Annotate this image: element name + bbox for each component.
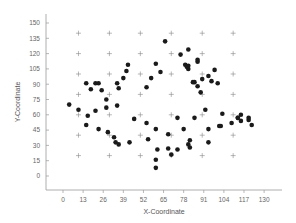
data-point: [85, 114, 90, 119]
data-point: [116, 142, 121, 147]
data-point: [112, 135, 117, 140]
x-axis-ticks: 013263952657891104117130: [61, 190, 270, 203]
plus-marker: [231, 92, 236, 97]
data-point: [206, 127, 211, 132]
data-point: [186, 47, 191, 52]
plus-marker: [138, 31, 143, 36]
plus-marker: [76, 133, 81, 138]
data-point: [212, 68, 217, 73]
data-point: [249, 123, 254, 128]
plus-marker: [231, 31, 236, 36]
plus-marker: [169, 112, 174, 117]
plus-marker: [200, 72, 205, 77]
data-point: [124, 69, 129, 74]
plus-marker: [138, 133, 143, 138]
y-axis-title: Y-Coordinate: [14, 82, 21, 123]
data-point: [115, 103, 120, 108]
y-tick-label: 0: [36, 172, 40, 179]
x-tick-label: 26: [100, 196, 108, 203]
plus-marker: [200, 112, 205, 117]
y-tick-label: 105: [29, 65, 40, 72]
x-tick-label: 78: [180, 196, 188, 203]
data-point: [96, 127, 101, 132]
data-point: [96, 81, 101, 86]
data-point: [144, 85, 149, 90]
data-point: [191, 80, 196, 85]
plus-marker: [76, 153, 81, 158]
y-tick-label: 60: [33, 111, 41, 118]
data-point: [146, 137, 151, 142]
data-point: [217, 124, 222, 129]
y-tick-label: 120: [29, 50, 40, 57]
y-tick-label: 150: [29, 19, 40, 26]
data-point: [188, 138, 193, 143]
data-point: [155, 147, 160, 152]
data-point: [203, 107, 208, 112]
data-point: [106, 130, 111, 135]
data-point: [127, 140, 132, 145]
x-tick-label: 65: [160, 196, 168, 203]
plus-marker: [138, 112, 143, 117]
plus-marker: [231, 51, 236, 56]
data-point: [104, 105, 109, 110]
plus-marker: [200, 31, 205, 36]
data-point: [192, 116, 197, 121]
x-tick-label: 130: [259, 196, 270, 203]
data-point: [163, 39, 168, 44]
data-point: [169, 152, 174, 157]
plus-marker: [76, 92, 81, 97]
plus-marker: [107, 153, 112, 158]
plus-marker: [200, 153, 205, 158]
y-tick-label: 75: [33, 96, 41, 103]
plus-marker: [231, 112, 236, 117]
data-point: [154, 166, 159, 171]
y-tick-label: 90: [33, 81, 41, 88]
plus-marker: [76, 51, 81, 56]
data-point: [181, 127, 186, 132]
data-point: [67, 102, 72, 107]
x-tick-label: 52: [140, 196, 148, 203]
data-point: [175, 147, 180, 152]
data-point: [76, 107, 81, 112]
data-point: [206, 74, 211, 79]
data-point: [198, 90, 203, 95]
plus-marker: [200, 51, 205, 56]
data-point: [84, 123, 89, 128]
scatter-chart: 0153045607590105120135150 01326395265789…: [0, 0, 296, 223]
plus-marker: [138, 153, 143, 158]
x-tick-label: 91: [200, 196, 208, 203]
data-point: [246, 118, 251, 123]
plus-marker: [169, 92, 174, 97]
x-tick-label: 104: [218, 196, 229, 203]
data-point: [154, 127, 159, 132]
data-point: [184, 65, 189, 70]
x-tick-label: 39: [120, 196, 128, 203]
reference-crosses: [76, 31, 236, 158]
y-tick-label: 15: [33, 157, 41, 164]
plus-marker: [76, 72, 81, 77]
data-point: [166, 132, 171, 137]
plus-marker: [231, 153, 236, 158]
plus-marker: [169, 31, 174, 36]
data-point: [166, 146, 171, 151]
plus-marker: [76, 112, 81, 117]
plus-marker: [107, 112, 112, 117]
data-points: [67, 39, 254, 170]
data-point: [84, 81, 89, 86]
x-tick-label: 117: [239, 196, 250, 203]
data-point: [200, 77, 205, 82]
data-point: [144, 121, 149, 126]
data-point: [220, 111, 225, 116]
data-point: [116, 86, 121, 91]
data-point: [104, 97, 109, 102]
plus-marker: [107, 51, 112, 56]
y-tick-label: 135: [29, 35, 40, 42]
data-point: [195, 84, 200, 89]
data-point: [195, 57, 200, 62]
plus-marker: [107, 31, 112, 36]
data-point: [178, 52, 183, 57]
plus-marker: [107, 72, 112, 77]
plus-marker: [138, 72, 143, 77]
plus-marker: [231, 133, 236, 138]
x-tick-label: 13: [79, 196, 87, 203]
